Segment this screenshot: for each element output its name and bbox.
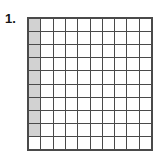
grid-cell [140,124,151,136]
grid-cell [78,32,89,44]
grid-cell [54,124,65,136]
grid-cell [41,137,52,149]
grid-cell [29,111,40,123]
grid-cell [29,137,40,149]
hundred-grid-container [27,17,153,151]
grid-cell [29,71,40,83]
grid-cell [115,71,126,83]
grid-cell [103,32,114,44]
grid-cell [54,71,65,83]
grid-cell [66,71,77,83]
grid-cell [29,124,40,136]
grid-cell [91,85,102,97]
grid-cell [103,137,114,149]
grid-cell [127,45,138,57]
grid-cell [41,98,52,110]
grid-cell [29,32,40,44]
grid-cell [78,19,89,31]
grid-cell [54,98,65,110]
grid-cell [29,98,40,110]
grid-cell [127,124,138,136]
grid-cell [103,98,114,110]
grid-cell [54,45,65,57]
grid-cell [78,45,89,57]
grid-cell [127,32,138,44]
grid-cell [115,32,126,44]
grid-cell [140,85,151,97]
grid-cell [91,98,102,110]
grid-cell [66,111,77,123]
grid-cell [66,19,77,31]
grid-cell [41,124,52,136]
worksheet-figure: 1. [0,0,167,157]
grid-cell [115,58,126,70]
grid-cell [140,98,151,110]
grid-cell [54,85,65,97]
grid-cell [29,19,40,31]
grid-cell [91,111,102,123]
problem-number-label: 1. [5,12,16,26]
grid-cell [66,32,77,44]
grid-cell [78,111,89,123]
grid-cell [78,124,89,136]
grid-cell [54,32,65,44]
grid-cell [78,58,89,70]
grid-cell [54,19,65,31]
grid-cell [91,124,102,136]
grid-cell [103,19,114,31]
grid-cell [140,58,151,70]
grid-cell [91,32,102,44]
grid-cell [66,85,77,97]
grid-cell [91,58,102,70]
grid-cell [103,58,114,70]
grid-cell [103,124,114,136]
grid-cell [115,124,126,136]
grid-cell [78,98,89,110]
grid-cell [66,45,77,57]
grid-cell [127,71,138,83]
grid-cell [54,111,65,123]
grid-cell [91,19,102,31]
grid-cell [54,137,65,149]
grid-cell [41,85,52,97]
grid-cell [140,32,151,44]
grid-cell [115,98,126,110]
grid-cell [127,98,138,110]
grid-cell [91,71,102,83]
grid-cell [78,71,89,83]
grid-cell [41,58,52,70]
grid-cell [41,71,52,83]
grid-cell [78,85,89,97]
grid-cell [115,111,126,123]
grid-cell [115,19,126,31]
grid-cell [140,19,151,31]
grid-cell [78,137,89,149]
grid-cell [66,98,77,110]
grid-cell [103,111,114,123]
grid-cell [91,45,102,57]
grid-cell [140,111,151,123]
grid-cell [127,111,138,123]
grid-cell [66,137,77,149]
grid-cell [41,111,52,123]
grid-cell [115,45,126,57]
grid-cell [127,85,138,97]
grid-cell [127,137,138,149]
grid-cell [140,137,151,149]
grid-cell [127,58,138,70]
grid-cell [29,58,40,70]
hundred-square-grid [27,17,153,151]
grid-cell [91,137,102,149]
grid-cell [41,45,52,57]
grid-cell [29,45,40,57]
grid-cell [41,19,52,31]
grid-cell [103,45,114,57]
grid-cell [29,85,40,97]
grid-cell [66,58,77,70]
grid-cell [140,45,151,57]
grid-cell [140,71,151,83]
grid-cell [66,124,77,136]
grid-cell [127,19,138,31]
grid-cell [103,71,114,83]
grid-cell [115,137,126,149]
